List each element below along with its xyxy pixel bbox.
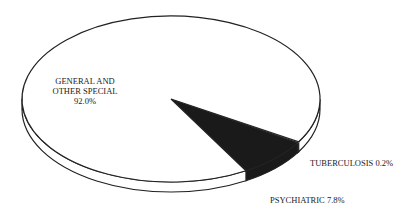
pie-top [22,16,320,182]
label-general-line1: GENERAL AND [55,76,114,86]
pie-chart: GENERAL AND OTHER SPECIAL 92.0% TUBERCUL… [0,0,417,217]
label-psychiatric: PSYCHIATRIC 7.8% [270,195,345,205]
label-general-value: 92.0% [74,96,96,106]
label-general-line2: OTHER SPECIAL [53,86,118,96]
label-tuberculosis: TUBERCULOSIS 0.2% [310,158,393,168]
